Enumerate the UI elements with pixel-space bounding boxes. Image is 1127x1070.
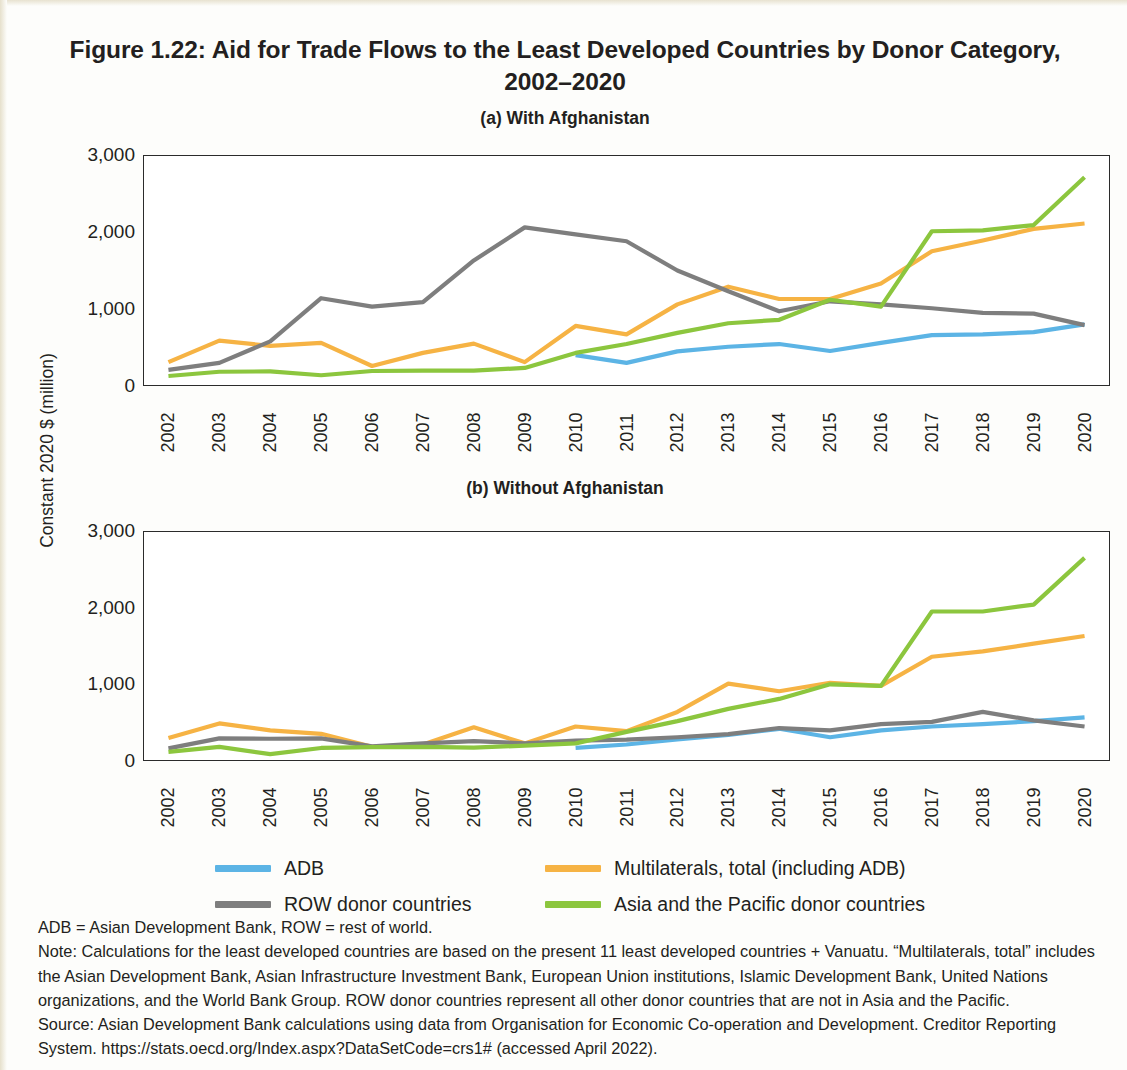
legend-label: ADB bbox=[284, 857, 324, 880]
y-axis-ticks-panel-b: 01,0002,0003,000 bbox=[57, 531, 135, 761]
chart-legend: ADB Multilaterals, total (including ADB)… bbox=[215, 850, 1045, 922]
legend-item-multilaterals: Multilaterals, total (including ADB) bbox=[545, 857, 1045, 880]
series-line bbox=[168, 177, 1084, 376]
y-tick-label: 3,000 bbox=[59, 144, 135, 166]
chart-panel-a bbox=[143, 155, 1110, 386]
legend-label: Multilaterals, total (including ADB) bbox=[614, 857, 906, 880]
x-axis-ticks-panel-a: 2002200320042005200620072008200920102011… bbox=[143, 392, 1110, 470]
y-tick-label: 2,000 bbox=[59, 221, 135, 243]
x-tick-label: 2020 bbox=[1046, 392, 1124, 470]
page-edge-left bbox=[0, 0, 7, 1070]
legend-swatch-icon bbox=[215, 865, 271, 872]
figure-notes: ADB = Asian Development Bank, ROW = rest… bbox=[38, 915, 1110, 1061]
chart-panel-b bbox=[143, 531, 1110, 761]
y-tick-label: 1,000 bbox=[59, 673, 135, 695]
figure-title: Figure 1.22: Aid for Trade Flows to the … bbox=[60, 34, 1070, 98]
legend-label: ROW donor countries bbox=[284, 893, 472, 916]
y-tick-label: 3,000 bbox=[59, 520, 135, 542]
y-tick-label: 0 bbox=[59, 375, 135, 397]
legend-swatch-icon bbox=[215, 901, 271, 908]
y-axis-ticks-panel-a: 01,0002,0003,000 bbox=[57, 155, 135, 386]
legend-item-row-donor-countries: ROW donor countries bbox=[215, 893, 545, 916]
x-axis-ticks-panel-b: 2002200320042005200620072008200920102011… bbox=[143, 767, 1110, 845]
panel-b-title: (b) Without Afghanistan bbox=[60, 478, 1070, 499]
legend-label: Asia and the Pacific donor countries bbox=[614, 893, 925, 916]
plot-lines-a bbox=[143, 155, 1110, 386]
legend-swatch-icon bbox=[545, 865, 601, 872]
y-tick-label: 2,000 bbox=[59, 597, 135, 619]
y-axis-label: Constant 2020 $ (million) bbox=[37, 286, 58, 616]
source-note: Source: Asian Development Bank calculati… bbox=[38, 1012, 1110, 1061]
page-edge-top bbox=[0, 0, 1127, 6]
series-line bbox=[576, 324, 1085, 363]
plot-lines-b bbox=[143, 531, 1110, 761]
abbreviations-note: ADB = Asian Development Bank, ROW = rest… bbox=[38, 915, 1110, 939]
y-tick-label: 1,000 bbox=[59, 298, 135, 320]
legend-item-adb: ADB bbox=[215, 857, 545, 880]
legend-item-asia-pacific-donor-countries: Asia and the Pacific donor countries bbox=[545, 893, 1045, 916]
legend-swatch-icon bbox=[545, 901, 601, 908]
methodology-note: Note: Calculations for the least develop… bbox=[38, 939, 1110, 1012]
x-tick-label: 2020 bbox=[1046, 767, 1124, 845]
panel-a-title: (a) With Afghanistan bbox=[60, 108, 1070, 129]
y-tick-label: 0 bbox=[59, 750, 135, 772]
